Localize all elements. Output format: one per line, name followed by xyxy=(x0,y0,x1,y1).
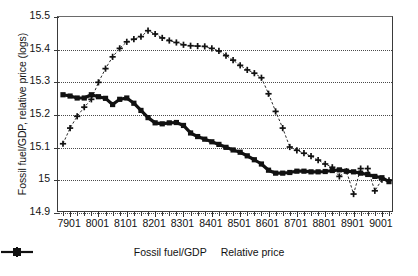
y-tick-label: 15.1 xyxy=(10,140,50,152)
data-point-marker xyxy=(259,161,264,166)
data-point-marker xyxy=(280,125,286,131)
legend-label-relative-price: Relative price xyxy=(221,246,285,258)
series-plot xyxy=(58,17,394,213)
data-point-marker xyxy=(103,96,108,101)
data-point-marker xyxy=(202,137,207,142)
legend-label-fossil-fuel-gdp: Fossil fuel/GDP xyxy=(134,246,207,258)
data-point-marker xyxy=(60,92,65,97)
plus-marker-icon xyxy=(0,246,34,258)
data-point-marker xyxy=(265,91,271,97)
data-point-marker xyxy=(365,172,370,177)
data-point-marker xyxy=(245,153,250,158)
data-point-marker xyxy=(280,171,285,176)
data-point-marker xyxy=(266,168,271,173)
data-point-marker xyxy=(160,121,165,126)
data-point-marker xyxy=(294,147,300,153)
data-point-marker xyxy=(173,39,179,45)
data-point-marker xyxy=(188,130,193,135)
series-fossil-fuel-gdp xyxy=(60,92,391,184)
data-point-marker xyxy=(152,31,158,37)
legend-item-relative-price: Relative price xyxy=(221,246,285,258)
data-point-marker xyxy=(273,108,279,114)
data-point-marker xyxy=(145,28,151,34)
data-point-marker xyxy=(60,141,66,147)
legend-item-fossil-fuel-gdp: Fossil fuel/GDP xyxy=(134,246,207,258)
data-point-marker xyxy=(145,115,150,120)
data-point-marker xyxy=(159,35,165,41)
data-point-marker xyxy=(316,169,321,174)
data-point-marker xyxy=(365,165,371,171)
data-point-marker xyxy=(209,45,215,51)
data-point-marker xyxy=(287,170,292,175)
data-point-marker xyxy=(287,144,293,150)
data-point-marker xyxy=(202,43,208,49)
chart-figure: Fossil fuel/GDP, relative price (logs) 1… xyxy=(0,0,418,276)
data-point-marker xyxy=(372,188,378,194)
data-point-marker xyxy=(301,169,306,174)
data-point-marker xyxy=(244,67,250,73)
data-point-marker xyxy=(180,42,186,48)
data-point-marker xyxy=(153,120,158,125)
data-point-marker xyxy=(223,145,228,150)
data-point-marker xyxy=(351,169,356,174)
y-tick-label: 15 xyxy=(10,172,50,184)
data-point-marker xyxy=(230,147,235,152)
plot-area xyxy=(57,16,393,212)
data-point-marker xyxy=(110,102,115,107)
data-point-marker xyxy=(258,75,264,81)
data-point-marker xyxy=(82,95,87,100)
data-point-marker xyxy=(181,123,186,128)
data-point-marker xyxy=(308,169,313,174)
y-tick-label: 15.5 xyxy=(10,9,50,21)
y-tick xyxy=(54,213,59,214)
chart-legend: Fossil fuel/GDP Relative price xyxy=(0,246,418,258)
data-point-marker xyxy=(166,37,172,43)
data-point-marker xyxy=(167,120,172,125)
data-point-marker xyxy=(372,174,377,179)
data-point-marker xyxy=(315,157,321,163)
data-point-marker xyxy=(75,95,80,100)
data-point-marker xyxy=(124,95,129,100)
data-point-marker xyxy=(138,108,143,113)
data-point-marker xyxy=(216,48,222,54)
data-point-marker xyxy=(273,171,278,176)
data-point-marker xyxy=(238,150,243,155)
data-point-marker xyxy=(252,157,257,162)
data-point-marker xyxy=(323,169,328,174)
data-point-marker xyxy=(308,153,314,159)
data-point-marker xyxy=(301,150,307,156)
data-point-marker xyxy=(67,93,72,98)
data-point-marker xyxy=(131,36,137,42)
data-point-marker xyxy=(209,139,214,144)
data-point-marker xyxy=(251,70,257,76)
data-point-marker xyxy=(174,120,179,125)
data-point-marker xyxy=(131,101,136,106)
data-point-marker xyxy=(195,134,200,139)
data-point-marker xyxy=(67,125,73,131)
data-point-marker xyxy=(223,52,229,58)
data-point-marker xyxy=(237,62,243,68)
data-point-marker xyxy=(322,161,328,167)
data-point-marker xyxy=(117,97,122,102)
data-point-marker xyxy=(95,79,101,85)
x-tick-label: 9001 xyxy=(361,217,401,229)
data-point-marker xyxy=(216,142,221,147)
y-tick-label: 15.4 xyxy=(10,42,50,54)
y-tick-label: 14.9 xyxy=(10,205,50,217)
gridline xyxy=(58,213,392,214)
data-point-marker xyxy=(102,66,108,72)
data-point-marker xyxy=(337,167,342,172)
y-tick-label: 15.3 xyxy=(10,74,50,86)
y-tick-label: 15.2 xyxy=(10,107,50,119)
data-point-marker xyxy=(195,43,201,49)
data-point-marker xyxy=(294,169,299,174)
data-point-marker xyxy=(96,94,101,99)
data-point-marker xyxy=(350,191,356,197)
data-point-marker xyxy=(187,43,193,49)
data-point-marker xyxy=(230,57,236,63)
